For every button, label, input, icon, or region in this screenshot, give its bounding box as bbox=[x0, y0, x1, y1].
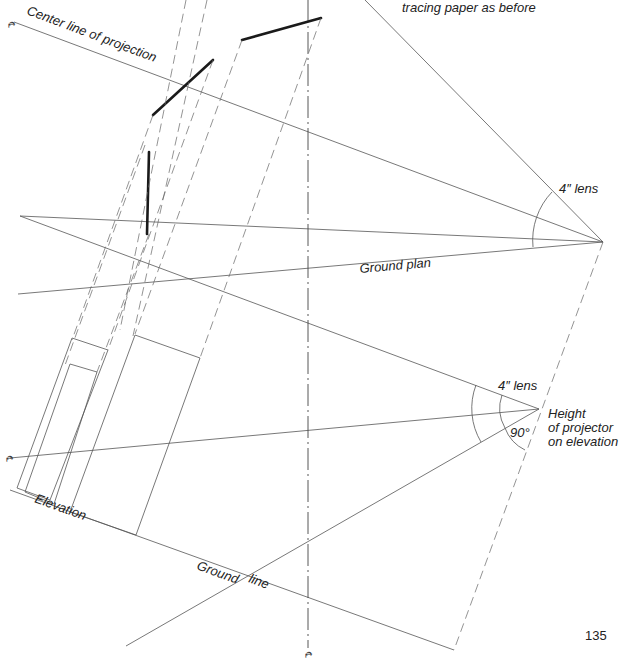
top-note-label: tracing paper as before bbox=[402, 0, 536, 15]
angle-90-label: 90° bbox=[510, 425, 530, 440]
ground-plan-line bbox=[18, 242, 603, 294]
line-word-label: line bbox=[247, 571, 271, 592]
elevation-label: Elevation bbox=[33, 491, 88, 523]
center-line-of-projection bbox=[14, 22, 603, 242]
centerline-symbol-top: ℄ bbox=[6, 21, 16, 28]
scenery-plan-piece-middle bbox=[153, 60, 213, 115]
height-label-line1: Height bbox=[548, 406, 587, 421]
elev-lens-arc-outer bbox=[472, 385, 481, 442]
elev-lens-arc-inner bbox=[500, 395, 505, 428]
height-label-line3: on elevation bbox=[548, 434, 618, 449]
scenery-plan-piece-right bbox=[242, 18, 321, 40]
projection-diagram: tracing paper as before Center line of p… bbox=[0, 0, 629, 660]
projector-dash-3 bbox=[64, 145, 145, 368]
centerline-symbol-left: ℄ bbox=[4, 455, 14, 462]
height-label-line2: of projector bbox=[548, 420, 614, 435]
plan-lens-ray-left bbox=[20, 216, 603, 242]
plan-lens-label: 4″ lens bbox=[559, 181, 599, 196]
projector-dash-8 bbox=[200, 18, 321, 358]
elevation-flat-left-inner bbox=[25, 364, 97, 504]
elev-lens-label: 4″ lens bbox=[498, 378, 538, 393]
elev-lens-ray-upper bbox=[20, 216, 539, 409]
centerline-symbol-bottom: ℄ bbox=[303, 651, 313, 658]
ground-word-label: Ground bbox=[195, 558, 242, 587]
elevation-flat-right bbox=[70, 335, 200, 535]
elev-center-ray bbox=[10, 409, 539, 458]
page-number: 135 bbox=[585, 628, 607, 643]
elev-lens-ray-lower bbox=[126, 409, 539, 646]
ground-plan-label: Ground plan bbox=[359, 255, 432, 276]
projector-dash-2 bbox=[108, 60, 213, 350]
plan-lens-ray-upper bbox=[365, 0, 603, 242]
